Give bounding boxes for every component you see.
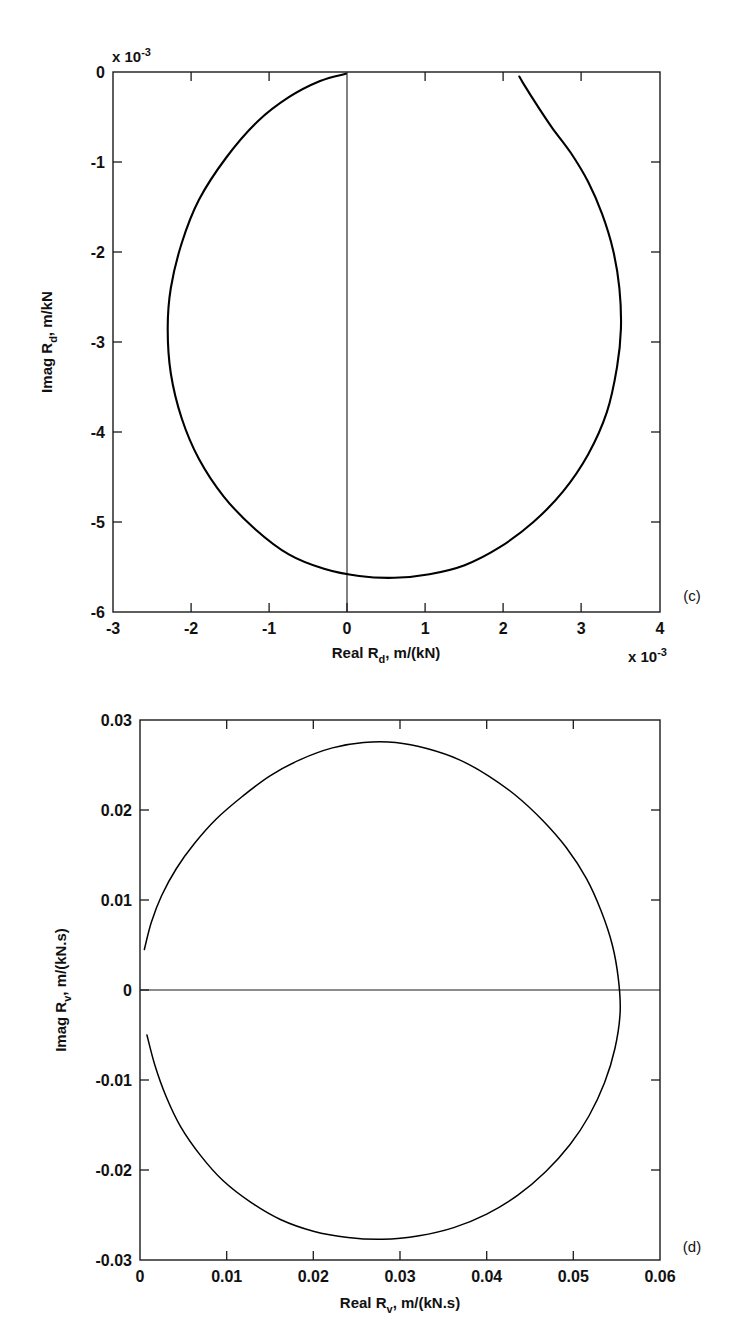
x-tick-label: -2	[184, 620, 198, 637]
x-axis-title-rest: , m/(kN)	[385, 644, 440, 661]
x-tick-label: 2	[499, 620, 508, 637]
data-curve-c	[168, 74, 621, 578]
y-axis-title-d: Imag Rv, m/(kN.s)	[52, 928, 73, 1052]
panel-d: 0.03 0.02 0.01 0 -0.01 -0.02 -0.03 0 0.0…	[0, 660, 748, 1329]
x-tick-label: 0.01	[211, 1268, 242, 1285]
svg-text:x 10-3: x 10-3	[112, 46, 151, 65]
x-tick-label: 1	[421, 620, 430, 637]
y-tick-label: -0.02	[96, 1162, 133, 1179]
y-exponent-prefix: x 10	[112, 48, 141, 65]
figure-container: 0 -1 -2 -3 -4 -5 -6 -3 -2 -1 0 1 2 3 4	[0, 0, 748, 1329]
x-axis-title-d: Real Rv, m/(kN.s)	[340, 1294, 460, 1315]
y-tick-label: 0.01	[101, 892, 132, 909]
y-axis-title-rest: , m/(kN.s)	[52, 928, 69, 996]
y-tick-label: -0.01	[96, 1072, 133, 1089]
x-tick-labels-c: -3 -2 -1 0 1 2 3 4	[106, 620, 665, 637]
y-tick-label: -5	[91, 514, 105, 531]
y-tick-labels-c: 0 -1 -2 -3 -4 -5 -6	[91, 64, 105, 621]
y-tick-label: 0.02	[101, 802, 132, 819]
data-curve-d	[144, 742, 620, 1240]
x-axis-title-rest: , m/(kN.s)	[393, 1294, 461, 1311]
y-axis-title-main: Imag R	[38, 343, 55, 393]
x-axis-title-main: Real R	[332, 644, 379, 661]
y-tick-label: -6	[91, 604, 105, 621]
panel-c: 0 -1 -2 -3 -4 -5 -6 -3 -2 -1 0 1 2 3 4	[0, 0, 748, 680]
y-tick-label: -4	[91, 424, 105, 441]
x-tick-label: 0.05	[558, 1268, 589, 1285]
y-tick-label: -2	[91, 244, 105, 261]
x-tick-label: 0	[136, 1268, 145, 1285]
panel-tag-c: (c)	[683, 587, 701, 604]
x-tick-label: 0.02	[298, 1268, 329, 1285]
y-tick-label: 0	[123, 982, 132, 999]
y-tick-label: -1	[91, 154, 105, 171]
y-axis-exponent-c: x 10-3	[112, 46, 151, 65]
y-exponent-power: -3	[141, 46, 151, 58]
x-tick-label: 3	[577, 620, 586, 637]
x-tick-label: 0.03	[384, 1268, 415, 1285]
x-tick-label: 0	[343, 620, 352, 637]
chart-d-svg: 0.03 0.02 0.01 0 -0.01 -0.02 -0.03 0 0.0…	[0, 660, 748, 1329]
x-tick-labels-d: 0 0.01 0.02 0.03 0.04 0.05 0.06	[136, 1268, 676, 1285]
y-ticks-c	[113, 162, 660, 522]
x-exponent-power: -3	[657, 646, 667, 658]
x-tick-label: 0.06	[644, 1268, 675, 1285]
x-tick-label: -1	[262, 620, 276, 637]
x-tick-label: 4	[656, 620, 665, 637]
chart-c-svg: 0 -1 -2 -3 -4 -5 -6 -3 -2 -1 0 1 2 3 4	[0, 0, 748, 680]
x-tick-label: 0.04	[471, 1268, 502, 1285]
y-tick-label: 0	[96, 64, 105, 81]
y-axis-title-main: Imag R	[52, 1002, 69, 1052]
y-tick-labels-d: 0.03 0.02 0.01 0 -0.01 -0.02 -0.03	[96, 712, 133, 1269]
x-tick-label: -3	[106, 620, 120, 637]
y-axis-title-c: Imag Rd, m/kN	[38, 291, 59, 393]
plot-box-c	[113, 72, 660, 612]
y-tick-label: 0.03	[101, 712, 132, 729]
x-axis-title-main: Real R	[340, 1294, 387, 1311]
y-axis-title-rest: , m/kN	[38, 291, 55, 336]
panel-tag-d: (d)	[683, 1238, 701, 1255]
y-axis-title-sub: d	[47, 336, 59, 343]
y-tick-label: -0.03	[96, 1252, 133, 1269]
y-tick-label: -3	[91, 334, 105, 351]
